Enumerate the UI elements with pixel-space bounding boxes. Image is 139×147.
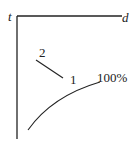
- vertical-axis-label: t: [8, 9, 12, 24]
- segment-end-label: 1: [70, 72, 77, 87]
- diagram-canvas: t d 2 1 100%: [0, 0, 139, 147]
- curve-line: [28, 82, 100, 130]
- curve-end-label: 100%: [97, 70, 128, 85]
- horizontal-axis-label: d: [122, 10, 129, 25]
- segment-line: [36, 60, 63, 78]
- segment-start-label: 2: [39, 45, 46, 60]
